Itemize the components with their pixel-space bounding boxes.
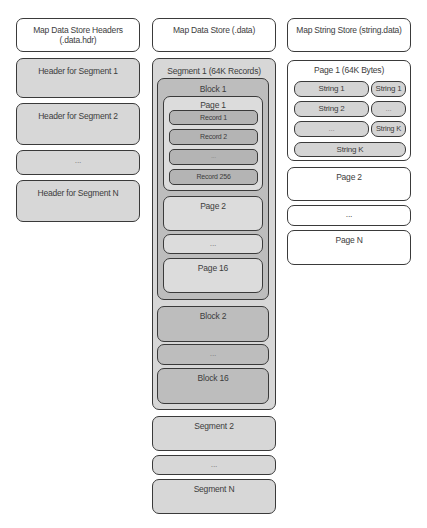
label: String 2 [295, 102, 368, 113]
string-row2-right: ... [371, 101, 406, 117]
label: String 1 [295, 82, 368, 93]
page-1-label: Page 1 [164, 97, 262, 110]
string-row2-left: String 2 [294, 101, 369, 117]
segment-2: Segment 2 [152, 416, 276, 451]
label: Record 256 [170, 170, 257, 180]
block-1-label: Block 1 [158, 79, 268, 94]
string-row4: String K [294, 142, 406, 157]
header-segment-2: Header for Segment 2 [16, 103, 140, 145]
record-ellipsis: ... [169, 149, 258, 165]
title-label: Map Data Store Headers (.data.hdr) [17, 19, 139, 45]
label: String K [295, 143, 405, 154]
string-row3-left: ... [294, 121, 369, 137]
label: Page N [288, 231, 410, 245]
label: String 1 [372, 82, 405, 93]
header-segment-1: Header for Segment 1 [16, 58, 140, 98]
label: ... [170, 150, 257, 159]
label: Page 2 [164, 197, 262, 211]
record-1: Record 1 [169, 110, 258, 125]
segment-ellipsis: ... [152, 455, 276, 475]
string-store-title: Map String Store (string.data) [287, 18, 411, 52]
label: Block 16 [158, 369, 268, 383]
label: ... [17, 151, 139, 165]
label: Header for Segment N [17, 181, 139, 198]
label: ... [164, 235, 262, 248]
data-store-title: Map Data Store (.data) [152, 18, 276, 52]
title-label: Map Data Store (.data) [153, 19, 275, 35]
label: Record 2 [170, 130, 257, 140]
header-segment-n: Header for Segment N [16, 180, 140, 222]
record-2: Record 2 [169, 129, 258, 145]
block-ellipsis: ... [157, 344, 269, 365]
header-ellipsis: ... [16, 150, 140, 175]
label: ... [295, 122, 368, 133]
label: ... [158, 345, 268, 358]
record-256: Record 256 [169, 169, 258, 185]
page-2: Page 2 [163, 196, 263, 231]
label: Page 1 (64K Bytes) [288, 61, 410, 75]
block-16: Block 16 [157, 368, 269, 404]
label: Header for Segment 2 [17, 104, 139, 121]
label: ... [372, 102, 405, 113]
label: ... [288, 206, 410, 219]
label: Page 16 [164, 259, 262, 273]
string-page-ellipsis: ... [287, 205, 411, 226]
label: Header for Segment 1 [17, 59, 139, 76]
page-ellipsis: ... [163, 234, 263, 254]
label: Block 2 [158, 307, 268, 321]
block-2: Block 2 [157, 306, 269, 342]
label: String K [372, 122, 405, 133]
segment-1-label: Segment 1 (64K Records) [153, 59, 275, 76]
label: ... [153, 456, 275, 469]
string-page-2: Page 2 [287, 167, 411, 201]
label: Page 2 [288, 168, 410, 182]
string-page-n: Page N [287, 230, 411, 265]
label: Segment N [153, 480, 275, 494]
page-16: Page 16 [163, 258, 263, 293]
data-store-headers-title: Map Data Store Headers (.data.hdr) [16, 18, 140, 52]
segment-n: Segment N [152, 479, 276, 514]
string-row3-right: String K [371, 121, 406, 137]
title-label: Map String Store (string.data) [288, 19, 410, 35]
label: Record 1 [170, 111, 257, 121]
label: Segment 2 [153, 417, 275, 431]
string-row1-left: String 1 [294, 81, 369, 97]
string-row1-right: String 1 [371, 81, 406, 97]
